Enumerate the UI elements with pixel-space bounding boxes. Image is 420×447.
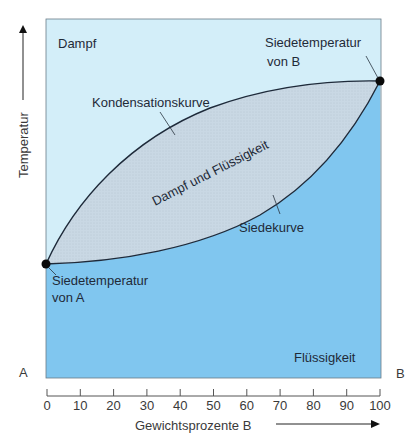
liquid-label: Flüssigkeit: [294, 350, 356, 365]
x-tick-label: 50: [206, 398, 220, 413]
x-axis-label: Gewichtsprozente B: [135, 418, 251, 433]
component-b-label: B: [396, 366, 405, 381]
x-tick-label: 0: [43, 398, 50, 413]
boiling-curve-label: Siedekurve: [239, 220, 304, 235]
x-tick-label: 30: [140, 398, 154, 413]
point-b-label-line1: Siedetemperatur: [265, 35, 362, 50]
x-axis-arrow-head: [371, 420, 380, 428]
point-a-label-line2: von A: [52, 290, 85, 305]
x-tick-label: 20: [106, 398, 120, 413]
condensation-curve-label: Kondensationskurve: [92, 95, 210, 110]
boiling-point-a-marker: [42, 260, 51, 269]
y-axis-label: Temperatur: [16, 112, 31, 178]
phase-diagram: Dampf Flüssigkeit Dampf und Flüssigkeit …: [0, 0, 420, 447]
vapor-label: Dampf: [58, 36, 97, 51]
x-tick-label: 60: [240, 398, 254, 413]
point-b-label-line2: von B: [267, 54, 300, 69]
y-axis-arrow-head: [19, 25, 27, 33]
x-tick-label: 10: [73, 398, 87, 413]
x-tick-label: 70: [273, 398, 287, 413]
component-a-label: A: [19, 365, 28, 380]
x-tick-label: 90: [339, 398, 353, 413]
x-tick-label: 40: [173, 398, 187, 413]
point-a-label-line1: Siedetemperatur: [52, 273, 149, 288]
x-tick-label: 100: [369, 398, 391, 413]
x-tick-label: 80: [306, 398, 320, 413]
boiling-point-b-marker: [376, 77, 385, 86]
x-axis: 0102030405060708090100: [43, 389, 390, 413]
